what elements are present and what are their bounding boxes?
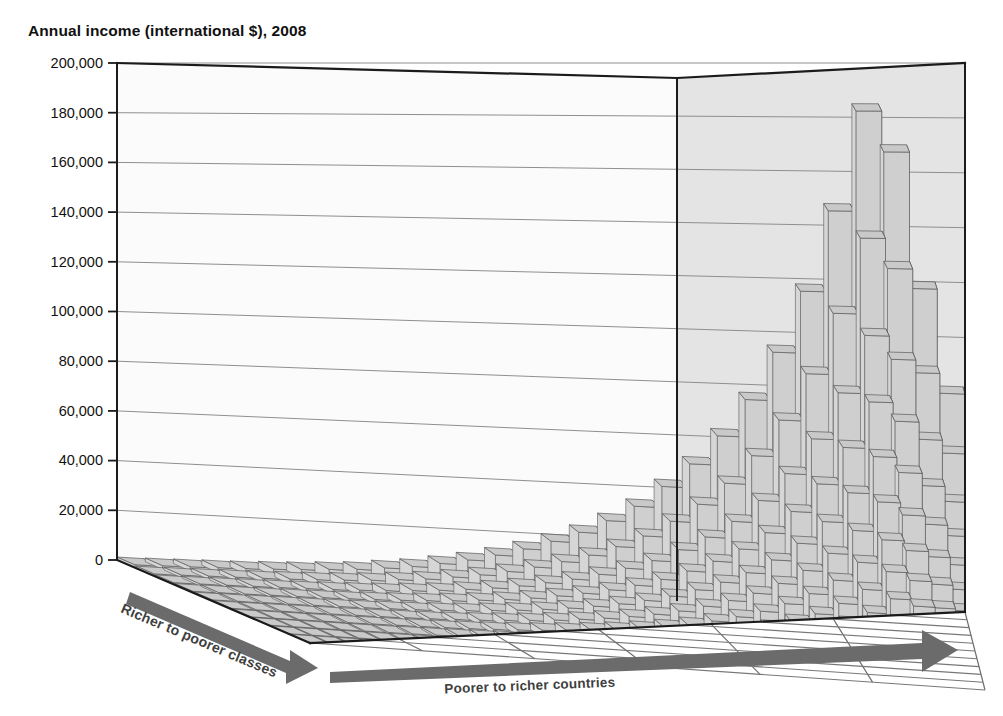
bar-face [856,231,885,239]
bar-face [886,591,890,675]
bar-face [960,653,983,662]
bar-face [461,637,496,646]
bar-face [967,495,969,635]
y-axis-tick-label: 140,000 [51,204,103,220]
bar-face [626,640,648,652]
chart-root: Annual income (international $), 2008 [0,0,1003,716]
bar-face [555,641,567,653]
bar-face [878,532,905,540]
bar-face [843,485,871,493]
bar-face [532,640,544,651]
bar-face [662,633,671,653]
y-axis-tick-label: 180,000 [51,105,103,121]
bar-face [838,440,867,448]
bar-face [863,605,868,674]
bar-face [937,386,965,394]
y-axis-tick-label: 60,000 [59,403,103,419]
bar-face [910,599,935,608]
bar-face [903,543,929,552]
bar-face [952,589,975,658]
bar-face [801,366,831,374]
bar-face [568,650,580,661]
back-wall-left [117,63,677,600]
bar-face [950,582,976,591]
y-axis-tick-label: 160,000 [51,154,103,170]
bar-face [530,641,542,651]
bar-face [545,649,557,659]
bar-face [884,261,913,269]
y-axis-tick-label: 80,000 [59,353,103,369]
y-axis-tick-labels: 200,000180,000160,000140,000120,000100,0… [51,55,103,568]
bar-face [939,446,967,454]
bar-face [779,596,785,653]
bar-face [663,627,686,647]
bar-face [829,306,859,314]
bar-face [882,564,908,573]
bar-face [945,528,972,537]
bar-face [906,573,932,582]
bar-face [795,284,826,292]
bar-face [899,508,926,517]
bar-face [483,639,496,649]
bar-face [886,591,912,600]
bar-face [566,651,578,661]
bar-face [969,530,971,643]
x-axis-caption: Poorer to richer countries [444,675,615,697]
bar-face [541,633,553,645]
bar-face [888,352,916,360]
bar-face [839,616,844,672]
bar-face [498,647,511,656]
bar-face [640,632,671,641]
bar-face [947,557,973,566]
bar-face [543,650,555,660]
bar-face [554,642,566,653]
y-axis-tick-label: 120,000 [51,254,103,270]
bar-face [861,328,890,336]
bar-face [475,646,510,655]
bar-face [687,632,695,654]
bar-face [577,643,588,655]
bar-face [664,631,673,653]
bar-face [484,639,497,649]
y-axis-tick-label: 40,000 [59,452,103,468]
bar-face [865,395,893,403]
y-axis-tick-label: 0 [95,552,103,568]
bar-face [792,630,820,639]
bar-face [461,637,475,647]
bar-face [852,104,882,111]
bar-face [869,449,897,457]
bar-face [640,632,649,652]
bar-face [880,145,909,153]
bar-face [955,622,979,631]
bar-face [833,385,862,393]
bar-face [910,599,914,677]
bar-face [848,523,876,532]
bar-face [688,625,711,649]
y-axis-tick-label: 200,000 [51,55,103,71]
bar-face [874,495,901,503]
y-axis-ticks [108,63,117,560]
chart-3d-scene: Richer to poorer classes Poorer to riche… [0,0,1003,716]
bar-face [891,414,919,422]
bar-face [957,638,959,680]
bar-face [895,465,922,473]
bar-face [824,204,854,212]
y-axis-tick-label: 20,000 [59,502,103,518]
y-axis-tick-label: 100,000 [51,303,103,319]
